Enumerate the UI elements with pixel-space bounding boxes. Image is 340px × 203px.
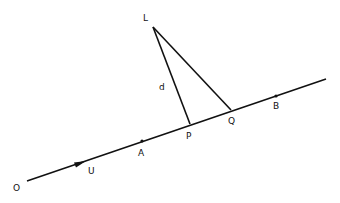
label-p: P: [186, 131, 192, 141]
label-a: A: [138, 148, 145, 158]
direction-arrow-icon: [74, 161, 86, 168]
diagram-canvas: O U A P Q B L d: [0, 0, 340, 203]
label-d: d: [159, 82, 165, 92]
segment-lq: [153, 27, 231, 110]
point-b-dot: [274, 94, 277, 97]
main-line: [27, 79, 326, 181]
label-l: L: [143, 13, 148, 23]
label-o: O: [13, 183, 20, 193]
label-u: U: [88, 166, 95, 176]
label-b: B: [273, 101, 279, 111]
label-q: Q: [228, 116, 235, 126]
segment-lp: [153, 27, 190, 124]
point-a-dot: [140, 139, 143, 142]
